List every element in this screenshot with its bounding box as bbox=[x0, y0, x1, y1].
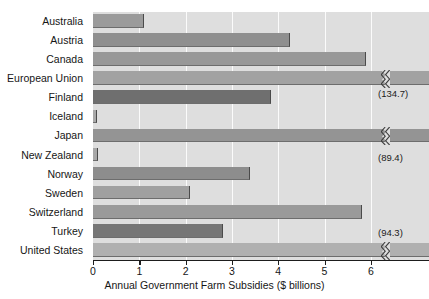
bar-row bbox=[93, 107, 429, 126]
bar bbox=[93, 33, 290, 47]
category-label: Turkey bbox=[51, 222, 83, 241]
bar bbox=[93, 167, 250, 181]
x-axis-tick-label: 0 bbox=[83, 265, 103, 277]
bar bbox=[93, 110, 97, 124]
plot-area bbox=[93, 12, 429, 260]
x-axis-line bbox=[93, 260, 429, 261]
category-label: United States bbox=[20, 241, 83, 260]
bar bbox=[93, 148, 98, 162]
category-label: Iceland bbox=[49, 107, 83, 126]
bar bbox=[93, 129, 429, 143]
category-label: Austria bbox=[50, 31, 83, 50]
x-axis-tick-label: 6 bbox=[361, 265, 381, 277]
x-axis-tick-label: 1 bbox=[129, 265, 149, 277]
bar-row bbox=[93, 69, 429, 88]
bar-value-annotation: (89.4) bbox=[378, 152, 403, 163]
category-label: Canada bbox=[46, 50, 83, 69]
x-axis-tick-label: 2 bbox=[176, 265, 196, 277]
plot-clip bbox=[93, 12, 429, 260]
bar-value-annotation: (94.3) bbox=[378, 227, 403, 238]
x-axis-tick-label: 3 bbox=[222, 265, 242, 277]
bar-row bbox=[93, 31, 429, 50]
bar bbox=[93, 224, 223, 238]
farm-subsidies-bar-chart: AustraliaAustriaCanadaEuropean UnionFinl… bbox=[0, 0, 429, 299]
bar-value-annotation: (134.7) bbox=[378, 88, 408, 99]
x-axis-title: Annual Government Farm Subsidies ($ bill… bbox=[0, 279, 429, 291]
bar bbox=[93, 205, 362, 219]
axis-break-marker bbox=[381, 127, 390, 145]
x-axis-tick-label: 5 bbox=[315, 265, 335, 277]
bar-row bbox=[93, 184, 429, 203]
category-axis-labels: AustraliaAustriaCanadaEuropean UnionFinl… bbox=[0, 12, 88, 260]
category-label: Australia bbox=[42, 12, 83, 31]
category-label: Switzerland bbox=[29, 203, 83, 222]
bar bbox=[93, 71, 429, 85]
bar-row bbox=[93, 241, 429, 260]
bar bbox=[93, 14, 144, 28]
bar-row bbox=[93, 50, 429, 69]
x-axis-tick-label: 4 bbox=[268, 265, 288, 277]
category-label: New Zealand bbox=[21, 146, 83, 165]
category-label: Japan bbox=[54, 126, 83, 145]
bar-row bbox=[93, 126, 429, 145]
category-label: European Union bbox=[7, 69, 83, 88]
axis-break-marker bbox=[381, 242, 390, 260]
axis-break-marker bbox=[381, 70, 390, 88]
bar bbox=[93, 52, 366, 66]
category-label: Finland bbox=[49, 88, 83, 107]
bar-row bbox=[93, 165, 429, 184]
bar bbox=[93, 90, 271, 104]
category-label: Sweden bbox=[45, 184, 83, 203]
bar-row bbox=[93, 203, 429, 222]
bar bbox=[93, 186, 190, 200]
bar-row bbox=[93, 12, 429, 31]
bar bbox=[93, 243, 429, 257]
category-label: Norway bbox=[47, 165, 83, 184]
